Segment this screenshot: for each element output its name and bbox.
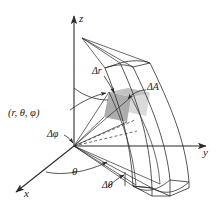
theta-label: θ bbox=[72, 166, 77, 177]
x-axis-label: x bbox=[24, 188, 29, 199]
y-axis-label: y bbox=[203, 147, 208, 158]
coordinate-point-leader bbox=[70, 93, 106, 110]
delta-r-label: Δr bbox=[92, 66, 102, 76]
delta-area-label: ΔA bbox=[147, 82, 159, 92]
x-axis bbox=[16, 146, 74, 192]
delta-area-patch bbox=[104, 88, 150, 122]
apex-radial-rays bbox=[82, 38, 150, 68]
spherical-coordinates-figure: z y x (r, θ, φ) Δr ΔA Δφ Δθ θ bbox=[0, 0, 220, 215]
delta-theta-label: Δθ bbox=[102, 180, 113, 190]
delta-phi-leader bbox=[64, 135, 73, 143]
coordinate-point-label: (r, θ, φ) bbox=[8, 108, 39, 119]
delta-phi-label: Δφ bbox=[47, 129, 58, 139]
z-axis-label: z bbox=[79, 13, 83, 24]
